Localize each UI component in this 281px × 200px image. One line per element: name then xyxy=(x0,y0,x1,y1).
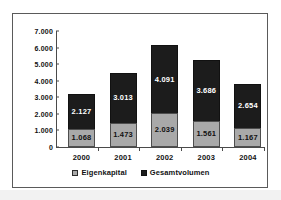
chart-frame: 7.0006.0005.0004.0003.0002.0001.0000 2.1… xyxy=(12,13,268,188)
x-axis-label-2001: 2001 xyxy=(103,153,143,162)
x-axis-tick-mark xyxy=(181,148,182,151)
y-axis-tick-mark xyxy=(56,31,59,32)
y-axis-tick-label: 6.000 xyxy=(34,44,53,51)
bar-value-label-gesamtvolumen: 3.686 xyxy=(196,87,216,95)
x-axis-label-2004: 2004 xyxy=(228,153,268,162)
stacked-bar: 2.1271.068 xyxy=(68,31,95,147)
legend-label-gesamtvolumen: Gesamtvolumen xyxy=(150,168,210,177)
bar-value-label-eigenkapital: 2.039 xyxy=(155,126,175,134)
y-axis-tick-mark xyxy=(56,64,59,65)
y-axis-tick-label: 0 xyxy=(49,144,53,151)
legend-item-gesamtvolumen[interactable]: Gesamtvolumen xyxy=(141,168,210,177)
x-axis-tick-mark xyxy=(98,148,99,151)
y-axis-tick-mark xyxy=(56,97,59,98)
bar-segment-gesamtvolumen: 2.127 xyxy=(68,94,95,129)
bar-segment-eigenkapital: 1.167 xyxy=(234,128,261,147)
total-swatch-icon xyxy=(141,170,147,176)
y-axis-tick-labels: 7.0006.0005.0004.0003.0002.0001.0000 xyxy=(27,31,53,147)
bar-value-label-gesamtvolumen: 4.091 xyxy=(155,76,175,84)
bar-value-label-eigenkapital: 1.561 xyxy=(196,130,216,138)
bar-value-label-eigenkapital: 1.473 xyxy=(113,131,133,139)
page-bottom-strip xyxy=(0,190,281,200)
y-axis-tick-label: 7.000 xyxy=(34,28,53,35)
stacked-bar: 3.6861.561 xyxy=(193,31,220,147)
y-axis-tick-label: 5.000 xyxy=(34,61,53,68)
y-axis-tick-mark xyxy=(56,113,59,114)
bar-value-label-gesamtvolumen: 3.013 xyxy=(113,94,133,102)
bar-segment-eigenkapital: 1.561 xyxy=(193,121,220,147)
bar-value-label-gesamtvolumen: 2.654 xyxy=(238,102,258,110)
x-axis-tick-mark xyxy=(222,148,223,151)
y-axis-tick-label: 4.000 xyxy=(34,77,53,84)
chart-page: 7.0006.0005.0004.0003.0002.0001.0000 2.1… xyxy=(0,0,281,200)
y-axis-tick-mark xyxy=(56,130,59,131)
legend-item-eigenkapital[interactable]: Eigenkapital xyxy=(72,168,126,177)
x-axis-label-2000: 2000 xyxy=(62,153,102,162)
stacked-bar: 2.6541.167 xyxy=(234,31,261,147)
x-axis-label-2002: 2002 xyxy=(145,153,185,162)
bar-segment-gesamtvolumen: 3.686 xyxy=(193,60,220,121)
x-axis-tick-mark xyxy=(264,148,265,151)
bar-segment-gesamtvolumen: 2.654 xyxy=(234,84,261,128)
x-axis-line xyxy=(56,147,265,148)
y-axis-tick-label: 3.000 xyxy=(34,94,53,101)
y-axis-tick-mark xyxy=(56,47,59,48)
x-axis-tick-mark xyxy=(139,148,140,151)
bar-value-label-eigenkapital: 1.167 xyxy=(238,134,258,142)
bar-segment-eigenkapital: 1.068 xyxy=(68,129,95,147)
x-axis-label-2003: 2003 xyxy=(186,153,226,162)
stacked-bar: 3.0131.473 xyxy=(110,31,137,147)
bar-segment-eigenkapital: 2.039 xyxy=(151,113,178,147)
y-axis-tick-mark xyxy=(56,80,59,81)
equity-swatch-icon xyxy=(72,170,78,176)
bar-value-label-eigenkapital: 1.068 xyxy=(72,134,92,142)
stacked-bar: 4.0912.039 xyxy=(151,31,178,147)
chart-legend: Eigenkapital Gesamtvolumen xyxy=(13,168,269,177)
bar-segment-gesamtvolumen: 4.091 xyxy=(151,45,178,113)
bar-segment-gesamtvolumen: 3.013 xyxy=(110,73,137,123)
y-axis-tick-mark xyxy=(56,147,59,148)
y-axis-tick-label: 1.000 xyxy=(34,127,53,134)
legend-label-eigenkapital: Eigenkapital xyxy=(81,168,126,177)
y-axis-tick-label: 2.000 xyxy=(34,110,53,117)
bar-segment-eigenkapital: 1.473 xyxy=(110,123,137,147)
bar-value-label-gesamtvolumen: 2.127 xyxy=(72,108,92,116)
